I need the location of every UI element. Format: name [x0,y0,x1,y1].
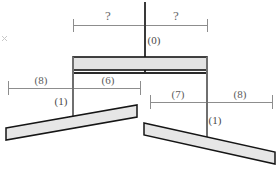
right-tilted-bar [144,123,275,164]
top-dimension-group: ? ? [73,8,207,32]
diagram-svg: ? ? (0) (8) (6) (7) (8) (1) [0,0,279,170]
left-dimension-inner-label: (6) [102,74,115,87]
horizontal-beam-body [73,57,207,70]
artifact-mark [2,36,7,41]
right-dimension-group: (7) (8) [150,88,272,109]
left-bar-label: (1) [55,95,68,108]
right-bar-label: (1) [209,114,222,127]
diagram-canvas: ? ? (0) (8) (6) (7) (8) (1) [0,0,279,170]
top-dimension-left-label: ? [105,8,111,23]
left-dimension-group: (8) (6) [8,74,140,95]
left-dimension-outer-label: (8) [35,74,48,87]
top-dimension-right-label: ? [173,8,179,23]
horizontal-beam [73,57,208,73]
left-tilted-bar [6,105,137,140]
center-axis-label: (0) [148,34,161,47]
right-dimension-outer-label: (8) [234,88,247,101]
right-dimension-inner-label: (7) [172,88,185,101]
